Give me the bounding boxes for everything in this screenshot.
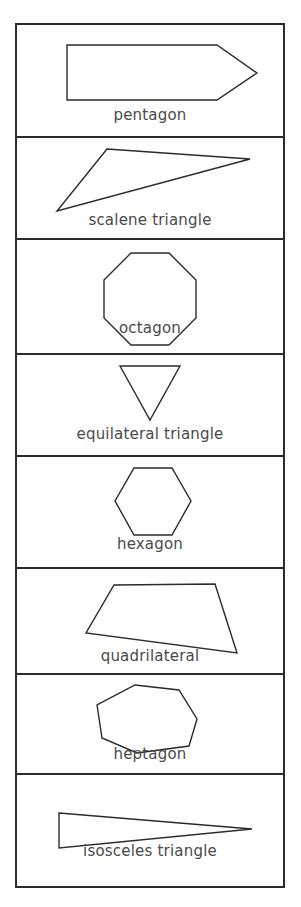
isosceles-triangle-figure [17,775,283,886]
shape-label-pentagon: pentagon [17,106,283,124]
heptagon-polygon [97,685,197,753]
shape-cell-isosceles-triangle: isosceles triangle [17,775,283,886]
shape-label-equilateral-triangle: equilateral triangle [17,425,283,443]
isosceles-triangle-icon [17,775,283,886]
shape-reference-sheet: pentagon scalene triangle octagon [0,0,301,907]
pentagon-polygon [67,45,257,100]
shape-label-quadrilateral: quadrilateral [17,647,283,665]
shape-label-isosceles-triangle: isosceles triangle [17,842,283,860]
shape-label-octagon: octagon [17,319,283,337]
shape-cell-octagon: octagon [17,240,283,355]
shape-label-scalene-triangle: scalene triangle [17,211,283,229]
quadrilateral-polygon [86,584,237,653]
shape-label-heptagon: heptagon [17,745,283,763]
shape-cell-equilateral-triangle: equilateral triangle [17,355,283,457]
scalene-triangle-polygon [57,149,250,211]
shape-cell-quadrilateral: quadrilateral [17,569,283,675]
hexagon-polygon [115,468,191,535]
shape-table: pentagon scalene triangle octagon [15,23,285,888]
equilateral-triangle-polygon [120,366,180,420]
shape-cell-hexagon: hexagon [17,457,283,569]
shape-cell-scalene-triangle: scalene triangle [17,138,283,240]
shape-cell-pentagon: pentagon [17,25,283,138]
shape-label-hexagon: hexagon [17,535,283,553]
shape-cell-heptagon: heptagon [17,675,283,775]
